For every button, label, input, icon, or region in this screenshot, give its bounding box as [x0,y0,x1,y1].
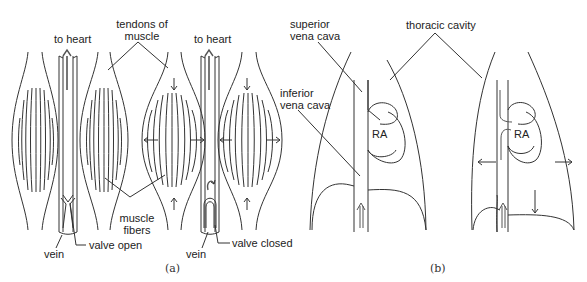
label-inferior-line1: inferior [280,87,330,99]
vein-valve-open [59,56,77,234]
label-tendons-line1: tendons of [112,18,172,30]
arrow-to-heart-left [63,50,71,90]
label-muscle-fibers-line2: fibers [112,224,162,236]
label-tendons: tendons of muscle [112,18,172,42]
label-ra-left: RA [372,128,387,140]
label-vein-right: vein [186,248,206,260]
arrow-to-heart-right [205,50,213,90]
label-to-heart-left: to heart [54,33,91,45]
muscle-contracted-left [142,52,205,230]
label-superior-line2: vena cava [290,30,340,42]
label-muscle-fibers-line1: muscle [112,212,162,224]
caption-b: (b) [430,262,446,275]
thorax-right [472,52,574,232]
label-muscle-fibers: muscle fibers [112,212,162,236]
label-tendons-line2: muscle [112,30,172,42]
label-superior-vena-cava: superior vena cava [290,18,340,42]
label-thoracic-cavity: thoracic cavity [406,19,476,31]
label-ra-right: RA [514,128,529,140]
muscle-relaxed-right [80,52,128,230]
label-inferior-line2: vena cava [280,99,330,111]
label-to-heart-right: to heart [194,33,231,45]
label-valve-open: valve open [89,239,142,251]
label-superior-line1: superior [290,18,340,30]
label-valve-closed: valve closed [232,237,293,249]
muscle-relaxed-left [12,52,58,230]
caption-a: (a) [165,262,180,275]
muscle-contracted-right [218,52,282,230]
label-vein-left: vein [44,248,64,260]
vein-valve-closed [201,56,219,234]
label-inferior-vena-cava: inferior vena cava [280,87,330,111]
